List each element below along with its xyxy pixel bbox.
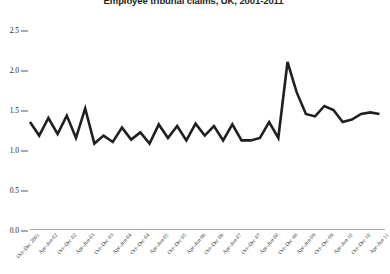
y-tick-mark (21, 110, 28, 111)
series-polyline (30, 62, 379, 144)
plot-area: 0.00.51.01.52.02.5 (30, 30, 385, 230)
y-tick-text: 0.0 (10, 226, 19, 235)
y-tick-text: 0.5 (10, 186, 19, 195)
y-tick-mark (21, 230, 28, 231)
y-tick-label: 0.5 (10, 186, 30, 195)
series-line-chart (30, 30, 385, 230)
y-tick-label: 2.5 (10, 26, 30, 35)
y-tick-mark (21, 150, 28, 151)
y-tick-text: 1.5 (10, 106, 19, 115)
chart-title: Employee tribunal claims, UK, 2001-2011 (0, 0, 387, 6)
y-tick-label: 1.5 (10, 106, 30, 115)
x-tick-label: Oct–Dec 2001 (15, 232, 40, 259)
y-tick-mark (21, 190, 28, 191)
y-tick-text: 2.0 (10, 66, 19, 75)
y-tick-text: 1.0 (10, 146, 19, 155)
y-tick-label: 0.0 (10, 226, 30, 235)
y-tick-text: 2.5 (10, 26, 19, 35)
y-tick-mark (21, 30, 28, 31)
y-tick-label: 1.0 (10, 146, 30, 155)
x-axis-labels: Oct–Dec 2001Apr–Jun 02Oct–Dec 02Apr–Jun … (30, 232, 385, 274)
y-tick-label: 2.0 (10, 66, 30, 75)
y-tick-mark (21, 70, 28, 71)
